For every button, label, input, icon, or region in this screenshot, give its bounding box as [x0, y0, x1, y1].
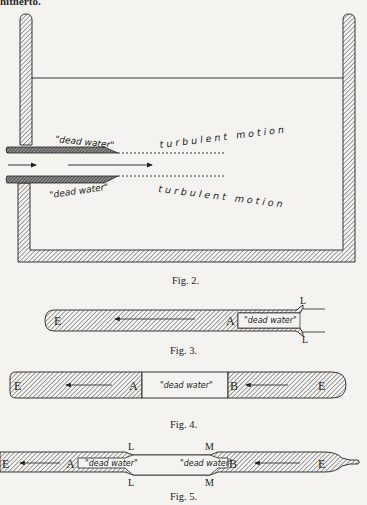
label-turbulent-lower: turbulent motion	[158, 183, 287, 210]
fig3-label-L-bottom: L	[302, 334, 308, 345]
fig5-label-E-right: E	[318, 457, 325, 471]
caption-fig-3: Fig. 3.	[170, 345, 197, 356]
fig5-label-M-bottom: M	[205, 477, 214, 488]
label-dead-water-lower: "dead water"	[49, 182, 109, 200]
fig4-label-dead-water: "dead water"	[160, 381, 213, 390]
fig4-label-B: B	[230, 379, 238, 393]
figure-5: E A "dead water" L L M M "dead water" B …	[0, 441, 360, 502]
label-turbulent-upper: turbulent motion	[159, 123, 288, 150]
fig5-label-dead-water-left: "dead water"	[85, 459, 138, 468]
fig5-label-A: A	[66, 457, 75, 471]
fig3-label-L-top: L	[300, 295, 306, 306]
figure-canvas: "dead water" "dead water" turbulent moti…	[0, 0, 367, 505]
fig3-label-A: A	[226, 314, 235, 328]
fig3-label-dead-water: "dead water"	[244, 316, 297, 325]
fig3-label-E: E	[54, 314, 61, 328]
fig5-label-E-left: E	[2, 457, 9, 471]
fig4-label-A: A	[129, 379, 138, 393]
fig4-label-E-right: E	[318, 379, 325, 393]
tank-left-wall-upper	[20, 14, 32, 145]
fig5-label-dead-water-right: "dead water"	[180, 459, 233, 468]
caption-fig-4: Fig. 4.	[170, 419, 197, 430]
fig5-label-L-bottom: L	[128, 477, 134, 488]
figure-4: E A "dead water" B E Fig. 4.	[10, 372, 346, 430]
fig5-label-M-top: M	[205, 441, 214, 452]
fig5-label-L-top: L	[128, 441, 134, 452]
caption-fig-2: Fig. 2.	[172, 275, 199, 286]
figure-3: E A "dead water" L L Fig. 3.	[45, 295, 325, 356]
fig5-label-B: B	[229, 457, 237, 471]
caption-fig-5: Fig. 5.	[170, 491, 197, 502]
figure-2: "dead water" "dead water" turbulent moti…	[6, 14, 355, 286]
fig4-label-E-left: E	[14, 379, 21, 393]
